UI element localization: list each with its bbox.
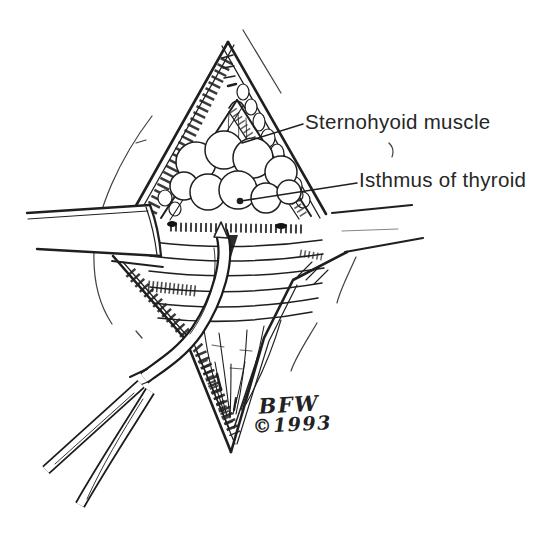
label-sternohyoid-muscle: Sternohyoid muscle bbox=[305, 110, 490, 134]
illustration-svg bbox=[0, 0, 556, 543]
artist-signature: BFW ©1993 bbox=[251, 393, 332, 435]
surgical-illustration-page: Sternohyoid muscle Isthmus of thyroid BF… bbox=[0, 0, 556, 543]
thyroid-isthmus bbox=[167, 131, 302, 229]
left-retractor bbox=[27, 205, 163, 267]
label-isthmus-of-thyroid: Isthmus of thyroid bbox=[359, 168, 526, 192]
right-retractor bbox=[332, 205, 423, 252]
signature-copyright-year: ©1993 bbox=[252, 413, 332, 435]
